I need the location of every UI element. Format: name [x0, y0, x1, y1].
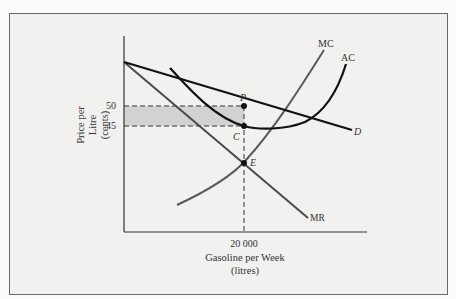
x-axis-label-line1: Gasoline per Week: [190, 251, 300, 264]
mr-curve: [124, 62, 308, 218]
y-axis-label: Price per Litre (cents): [75, 95, 111, 155]
p-label: P: [239, 92, 246, 103]
x-axis-label-line2: (litres): [190, 264, 300, 277]
d-label: D: [353, 126, 362, 137]
profit-area: [124, 106, 244, 126]
e-label: E: [249, 157, 256, 168]
y-axis-label-line1: Price per Litre: [75, 95, 99, 155]
y-axis-label-line2: (cents): [99, 95, 111, 155]
mr-label: MR: [310, 213, 325, 223]
point-c-marker: [241, 123, 247, 129]
mc-label: MC: [318, 38, 334, 49]
x-axis-label: Gasoline per Week (litres): [190, 251, 300, 277]
ac-label: AC: [341, 52, 355, 63]
c-label: C: [233, 131, 240, 142]
x-tick-20000: 20 000: [224, 238, 264, 249]
point-p-marker: [241, 103, 247, 109]
point-e-marker: [241, 160, 247, 166]
